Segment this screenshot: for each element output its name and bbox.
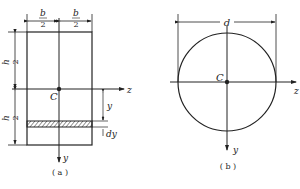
label-centroid-a: C	[50, 91, 58, 102]
label-z-axis-b: z	[293, 86, 299, 96]
label-h-num-2: h	[1, 115, 11, 121]
label-y-axis-a: y	[62, 153, 69, 163]
label-b-den-2: 2	[73, 20, 78, 29]
caption-a: ( a )	[52, 168, 68, 177]
label-strip-y: y	[106, 101, 113, 111]
cross-section-diagrams: b 2 b 2 h 2 h 2 C z y dy y ( a ) d C z y…	[0, 0, 300, 189]
figure-b-circle	[170, 14, 296, 150]
caption-b: ( b )	[220, 162, 236, 171]
label-b-num: b	[40, 8, 46, 18]
label-centroid-b: C	[216, 72, 224, 83]
centroid-point-b	[225, 80, 229, 84]
figure-a-rectangle	[8, 14, 124, 162]
label-b-num-2: b	[73, 8, 79, 18]
label-z-axis-a: z	[126, 85, 132, 95]
label-h-den: 2	[11, 59, 20, 64]
label-h-num: h	[1, 59, 11, 65]
label-h-den-2: 2	[11, 115, 20, 120]
label-b-den: 2	[40, 20, 45, 29]
label-y-axis-b: y	[232, 145, 239, 155]
label-dy: dy	[106, 129, 118, 139]
label-diameter: d	[224, 17, 230, 28]
